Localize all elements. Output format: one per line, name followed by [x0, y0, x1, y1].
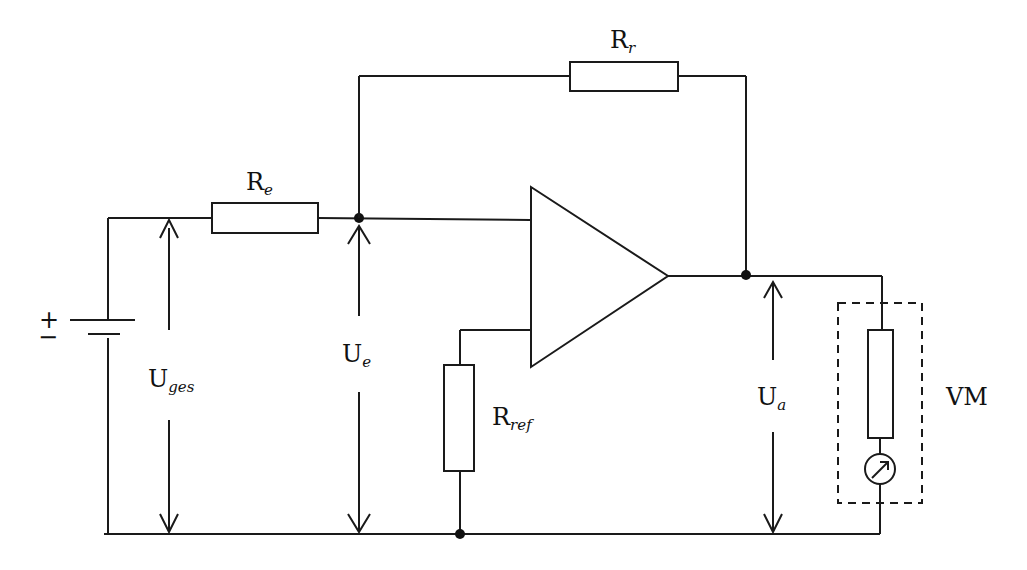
resistor-rr	[570, 62, 678, 91]
voltage-arrow-ue-icon	[348, 226, 370, 532]
circuit-diagram: + − Re Rr Rref Uges Ue	[0, 0, 1027, 570]
wire-to-inverting-input	[318, 218, 530, 220]
label-re: Re	[246, 168, 273, 199]
label-rr: Rr	[610, 26, 636, 57]
resistor-re	[212, 203, 318, 233]
meter-gauge-icon	[865, 454, 895, 484]
junction-node-ground	[455, 529, 465, 539]
label-vm: VM	[945, 383, 988, 411]
label-rref: Rref	[492, 403, 534, 434]
vm-internal-resistor	[868, 330, 893, 438]
opamp-triangle-icon	[531, 187, 668, 367]
junction-node-output	[741, 270, 751, 280]
label-uges: Uges	[148, 365, 195, 396]
resistor-rref	[444, 365, 474, 471]
label-ue: Ue	[342, 340, 371, 371]
label-ua: Ua	[757, 383, 786, 414]
battery-icon	[70, 320, 135, 334]
battery-minus-label: −	[38, 323, 58, 351]
